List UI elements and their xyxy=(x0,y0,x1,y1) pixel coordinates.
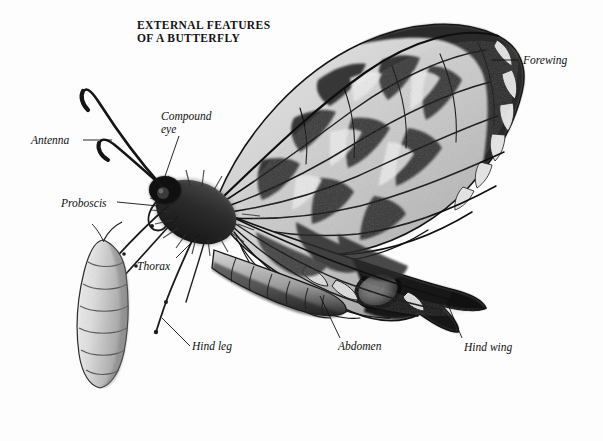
compound-eye xyxy=(157,187,169,199)
label-hind-wing: Hind wing xyxy=(464,341,512,354)
figure-page: EXTERNAL FEATURES OF A BUTTERFLY Antenna… xyxy=(0,0,603,441)
label-proboscis: Proboscis xyxy=(61,197,107,210)
label-compound-eye: Compound eye xyxy=(161,110,211,135)
label-hind-leg: Hind leg xyxy=(192,340,232,353)
butterfly-illustration xyxy=(0,0,603,441)
label-abdomen: Abdomen xyxy=(338,340,381,353)
figure-title: EXTERNAL FEATURES OF A BUTTERFLY xyxy=(137,19,270,45)
label-forewing: Forewing xyxy=(523,54,567,67)
label-antenna: Antenna xyxy=(31,134,69,147)
label-thorax: Thorax xyxy=(137,260,170,273)
